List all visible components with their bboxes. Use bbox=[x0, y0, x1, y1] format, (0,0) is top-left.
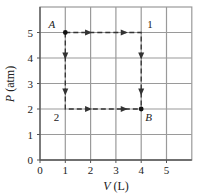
y-tick-label: 0 bbox=[28, 154, 34, 166]
state-label-b: B bbox=[145, 111, 152, 123]
x-tick-labels: 012345 bbox=[37, 160, 170, 176]
x-tick-label: 4 bbox=[138, 164, 144, 176]
dashed-process-path bbox=[65, 33, 141, 110]
y-tick-label: 2 bbox=[28, 103, 34, 115]
arrow-icon bbox=[62, 88, 68, 95]
state-label-2: 2 bbox=[54, 111, 60, 123]
arrow-icon bbox=[138, 88, 144, 95]
x-tick-label: 5 bbox=[164, 164, 170, 176]
y-tick-label: 1 bbox=[28, 129, 34, 141]
grid-lines bbox=[40, 7, 192, 160]
y-axis-title: P (atm) bbox=[3, 66, 17, 103]
y-tick-label: 5 bbox=[28, 27, 34, 39]
x-tick-label: 3 bbox=[113, 164, 119, 176]
x-tick-label: 2 bbox=[88, 164, 94, 176]
direction-arrows bbox=[62, 30, 144, 113]
x-tick-label: 0 bbox=[37, 164, 43, 176]
process-paths bbox=[65, 33, 141, 110]
y-tick-labels: 012345 bbox=[28, 27, 41, 167]
x-tick-label: 1 bbox=[63, 164, 69, 176]
arrow-icon bbox=[121, 106, 128, 112]
y-tick-label: 4 bbox=[28, 52, 34, 64]
state-point-marker bbox=[139, 107, 144, 112]
state-points: A1B2 bbox=[48, 18, 153, 124]
y-tick-label: 3 bbox=[28, 78, 34, 90]
arrow-icon bbox=[121, 30, 128, 36]
state-label-1: 1 bbox=[147, 18, 153, 30]
dashed-process-path bbox=[65, 33, 141, 110]
state-label-a: A bbox=[48, 18, 56, 30]
pv-diagram: A1B2 012345 012345 V (L) P (atm) bbox=[0, 0, 198, 195]
state-point-marker bbox=[63, 30, 68, 35]
x-axis-title: V (L) bbox=[103, 179, 129, 193]
